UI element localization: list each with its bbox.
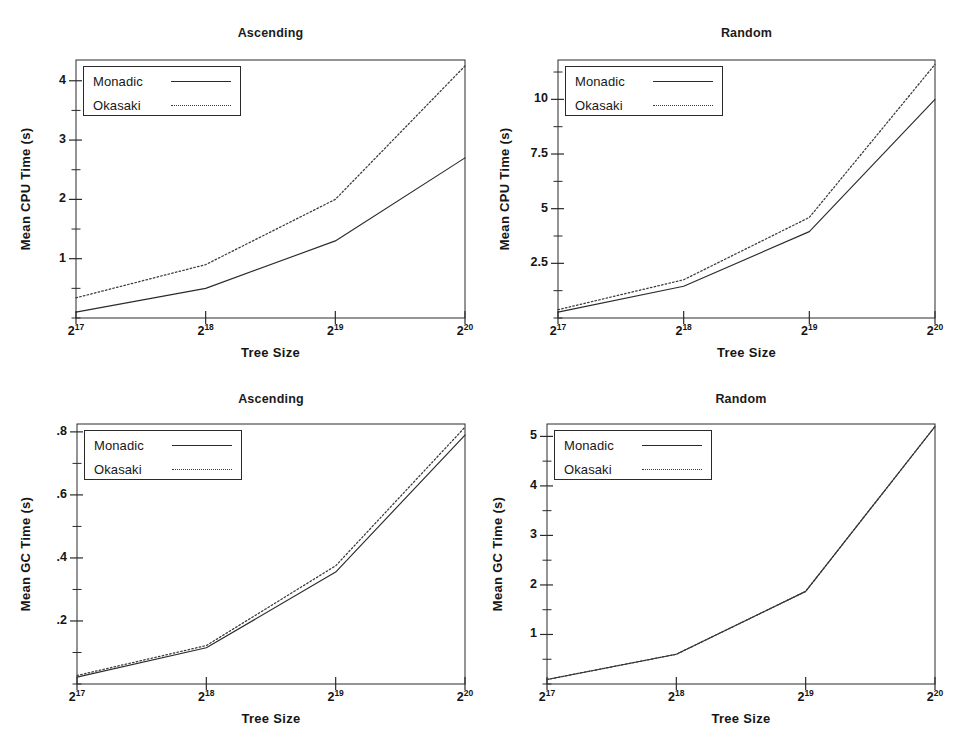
legend-item-okasaki[interactable]: Okasaki [84,93,240,117]
legend-swatch-solid [172,440,232,450]
legend-swatch-dotted [642,464,702,474]
y-tick-label: 3 [18,132,66,146]
x-tick-base: 2 [68,324,75,338]
y-tick-label: .6 [19,487,67,501]
chart-panel-cpu-ascending: AscendingMean CPU Time (s)Tree Size12342… [0,0,974,754]
x-tick-exponent: 20 [934,688,943,698]
x-tick-base: 2 [927,324,934,338]
x-tick-exponent: 18 [205,688,214,698]
x-tick-label: 219 [779,322,839,338]
x-tick-base: 2 [550,324,557,338]
x-tick-label: 220 [435,322,495,338]
legend-label: Monadic [566,74,625,89]
x-axis-label-cpu-random: Tree Size [558,345,935,360]
x-tick-exponent: 19 [334,688,343,698]
x-tick-base: 2 [198,690,205,704]
y-tick-label: 5 [500,201,548,215]
panel-title-gc-ascending: Ascending [77,392,465,406]
x-tick-base: 2 [668,690,675,704]
x-axis-label-gc-random: Tree Size [547,711,935,726]
x-tick-label: 220 [905,322,965,338]
x-tick-exponent: 20 [464,688,473,698]
x-tick-label: 218 [646,688,706,704]
y-tick-label: 2 [489,577,537,591]
legend-label: Okasaki [85,462,142,477]
x-tick-base: 2 [197,324,204,338]
y-tick-label: 4 [489,478,537,492]
legend-swatch-solid [171,76,231,86]
x-axis-label-gc-ascending: Tree Size [77,711,465,726]
legend-rule [642,445,702,446]
x-tick-label: 219 [306,688,366,704]
series-line-monadic [76,158,465,312]
x-tick-exponent: 17 [76,688,85,698]
x-tick-exponent: 18 [675,688,684,698]
y-tick-label: 1 [18,251,66,265]
legend-swatch-solid [642,440,702,450]
y-tick-label: 5 [489,428,537,442]
x-tick-exponent: 17 [546,688,555,698]
legend-label: Monadic [555,438,614,453]
y-axis-label-cpu-random: Mean CPU Time (s) [497,128,512,251]
x-tick-exponent: 20 [464,322,473,332]
legend-item-monadic[interactable]: Monadic [85,433,241,457]
legend-item-monadic[interactable]: Monadic [84,69,240,93]
x-tick-label: 218 [176,688,236,704]
legend-item-monadic[interactable]: Monadic [555,433,711,457]
legend-cpu-random: MonadicOkasaki [565,66,723,116]
x-tick-label: 217 [46,322,106,338]
legend-label: Okasaki [555,462,612,477]
x-tick-label: 217 [47,688,107,704]
x-tick-base: 2 [927,690,934,704]
y-tick-label: 2.5 [500,255,548,269]
x-tick-label: 219 [305,322,365,338]
y-tick-label: 10 [500,91,548,105]
y-axis-label-gc-random: Mean GC Time (s) [490,497,505,611]
legend-label: Monadic [85,438,144,453]
y-tick-label: 2 [18,191,66,205]
legend-swatch-dotted [172,464,232,474]
legend-gc-random: MonadicOkasaki [554,430,712,480]
x-tick-label: 220 [435,688,495,704]
y-tick-label: 3 [489,527,537,541]
x-tick-base: 2 [539,690,546,704]
x-tick-label: 217 [528,322,588,338]
x-tick-label: 217 [517,688,577,704]
x-tick-base: 2 [69,690,76,704]
legend-gc-ascending: MonadicOkasaki [84,430,242,480]
x-tick-label: 218 [176,322,236,338]
x-tick-exponent: 17 [557,322,566,332]
y-tick-label: .4 [19,550,67,564]
legend-swatch-dotted [171,100,231,110]
y-axis-label-gc-ascending: Mean GC Time (s) [18,497,33,611]
y-tick-label: .2 [19,613,67,627]
legend-item-monadic[interactable]: Monadic [566,69,722,93]
legend-rule [653,81,713,82]
legend-item-okasaki[interactable]: Okasaki [566,93,722,117]
panel-title-cpu-ascending: Ascending [76,26,465,40]
legend-item-okasaki[interactable]: Okasaki [555,457,711,481]
legend-rule [653,105,713,106]
legend-rule [172,445,232,446]
x-tick-label: 218 [654,322,714,338]
y-axis-label-cpu-ascending: Mean CPU Time (s) [18,128,33,251]
x-tick-label: 219 [776,688,836,704]
legend-rule [171,81,231,82]
x-tick-exponent: 19 [804,688,813,698]
legend-rule [642,469,702,470]
legend-cpu-ascending: MonadicOkasaki [83,66,241,116]
y-tick-label: 7.5 [500,146,548,160]
x-tick-base: 2 [675,324,682,338]
legend-swatch-solid [653,76,713,86]
x-axis-label-cpu-ascending: Tree Size [76,345,465,360]
x-tick-exponent: 19 [334,322,343,332]
x-tick-label: 220 [905,688,965,704]
legend-label: Okasaki [566,98,623,113]
panel-title-gc-random: Random [547,392,935,406]
x-tick-base: 2 [801,324,808,338]
legend-label: Okasaki [84,98,141,113]
x-tick-exponent: 20 [934,322,943,332]
legend-item-okasaki[interactable]: Okasaki [85,457,241,481]
y-tick-label: 4 [18,73,66,87]
panel-title-cpu-random: Random [558,26,935,40]
